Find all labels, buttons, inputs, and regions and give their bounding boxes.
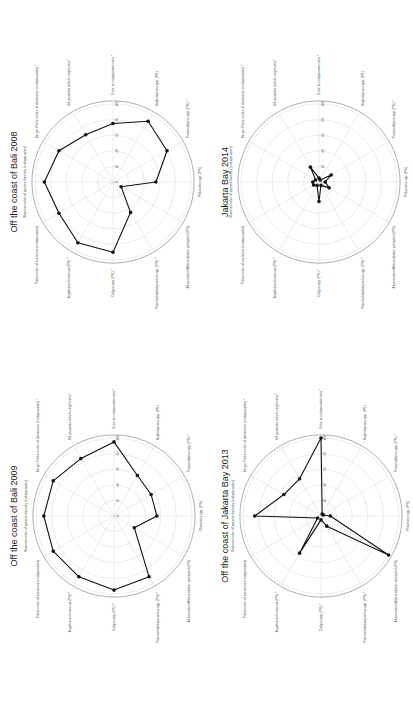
axis-label: Philometra spp. (P%): [198, 167, 202, 197]
axis-label: Procamallanus spp. (P%) *: [392, 99, 396, 138]
tick-label: 80: [321, 118, 325, 122]
data-point: [298, 477, 302, 481]
data-point: [325, 524, 329, 528]
data-point: [57, 149, 61, 153]
tick-label: 0: [116, 515, 120, 517]
axis-label: Berger-Parker index of dominance (endopa…: [241, 64, 245, 138]
tick-label: 40: [321, 149, 325, 153]
data-point: [79, 457, 83, 461]
axis-spoke: [321, 475, 391, 516]
axis-spoke: [278, 182, 319, 252]
axis-label: Pseudorhabdosynochus spp. (P%) *: [156, 591, 160, 643]
data-point: [149, 493, 153, 497]
tick-label: 20: [321, 164, 325, 168]
axis-label: Ecto- to endoparasite ratio *: [317, 54, 321, 94]
chart-title: Off the coast of Bali 2009: [9, 466, 19, 567]
data-point: [43, 180, 47, 184]
data-point: [298, 551, 302, 555]
axis-label: Ecto- to endoparasite ratio *: [112, 388, 116, 428]
data-point: [129, 211, 133, 215]
axis-label: Argathona rhinoceros (P%) *: [273, 257, 277, 298]
axis-label: Philometra spp. (P%): [199, 501, 203, 531]
tick-label: 100: [115, 101, 119, 107]
data-point: [111, 250, 115, 254]
axis-label: Raphidascaris spp. (P%): [361, 71, 365, 106]
data-point: [319, 518, 323, 522]
axis-label: Allocreadium/Allocreadiidae epinepheli (…: [187, 560, 191, 623]
axis-spoke: [73, 446, 114, 516]
axis-spoke: [72, 112, 113, 182]
axis-label: Shannon index of species diversity (endo…: [23, 146, 27, 218]
data-point: [312, 183, 316, 187]
chart-title: Off the coast of Jakarta Bay 2013: [220, 449, 230, 582]
radar-plot: Ecto- to endoparasite ratio *Raphidascar…: [24, 388, 203, 643]
tick-label: 60: [321, 133, 325, 137]
axis-spoke: [280, 446, 321, 516]
series-line: [44, 121, 167, 252]
series-line: [255, 438, 389, 555]
data-point: [315, 184, 319, 188]
tick-label: 60: [323, 467, 327, 471]
axis-label: Raphidascaris spp. (P%): [155, 71, 159, 106]
axis-spoke: [113, 182, 154, 252]
radar-plot: Ecto- to endoparasite ratio *Raphidascar…: [231, 388, 410, 643]
data-point: [329, 514, 333, 518]
tick-label: 100: [116, 435, 120, 441]
tick-label: 80: [116, 452, 120, 456]
data-point: [165, 149, 169, 153]
axis-label: Philometra spp. (P%): [406, 501, 410, 531]
radar-chart: Ecto- to endoparasite ratio *Raphidascar…: [206, 350, 413, 701]
axis-label: Pielou index of evenness (endoparasites): [36, 560, 40, 618]
data-point: [317, 200, 321, 204]
tick-label: 100: [321, 101, 325, 107]
axis-spoke: [319, 112, 360, 182]
axis-label: Pielou index of evenness (endoparasites): [243, 560, 247, 618]
axis-spoke: [321, 446, 362, 516]
tick-label: 40: [323, 483, 327, 487]
axis-label: Raphidascaris spp. (P%): [156, 405, 160, 440]
tick-label: 60: [115, 133, 119, 137]
axis-label: Berger-Parker index of dominance (endopa…: [35, 64, 39, 138]
axis-label: Procamallanus spp. (P%) *: [186, 99, 190, 138]
data-point: [57, 211, 61, 215]
tick-label: 40: [116, 483, 120, 487]
data-point: [319, 436, 323, 440]
axis-label: Berger-Parker index of dominance (endopa…: [243, 398, 247, 472]
data-point: [154, 180, 158, 184]
axis-spoke: [114, 516, 184, 557]
axis-label: Pseudorhabdosynochus spp. (P%) *: [361, 257, 365, 309]
axis-label: Caligus spp. (P%) *: [317, 269, 321, 297]
axis-label: Allocreadium/Allocreadiidae epinepheli (…: [392, 226, 396, 289]
axis-label: Raphidascaris spp. (P%): [363, 405, 367, 440]
axis-label: Caligus spp. (P%) *: [112, 603, 116, 631]
tick-label: 0: [115, 181, 119, 183]
axis-spoke: [251, 475, 321, 516]
data-point: [51, 479, 55, 483]
axis-label: Argathona rhinoceros (P%) *: [67, 257, 71, 298]
data-point: [147, 575, 151, 579]
tick-label: 20: [115, 164, 119, 168]
radar-panel-bali-2008: Ecto- to endoparasite ratio *Raphidascar…: [0, 0, 206, 350]
data-point: [318, 178, 322, 182]
radar-chart: Ecto- to endoparasite ratio *Raphidascar…: [0, 0, 206, 350]
axis-label: Argathona rhinoceros (P%) *: [68, 591, 72, 632]
data-point: [136, 474, 140, 478]
data-point: [132, 526, 136, 530]
axis-label: Gill parasites to fish weight ratio *: [275, 392, 279, 440]
axis-label: Philometra spp. (P%): [404, 167, 408, 197]
axis-label: Pseudorhabdosynochus spp. (P%) *: [155, 257, 159, 309]
axis-label: Shannon index of species diversity (endo…: [24, 480, 28, 552]
axis-label: Gill parasites to fish weight ratio *: [273, 58, 277, 106]
data-point: [316, 516, 320, 520]
data-point: [119, 185, 123, 189]
tick-label: 60: [116, 467, 120, 471]
data-point: [42, 514, 46, 518]
radar-plot: Ecto- to endoparasite ratio *Raphidascar…: [23, 54, 202, 309]
data-point: [327, 186, 331, 190]
axis-label: Shannon index of species diversity (endo…: [229, 146, 233, 218]
axis-spoke: [249, 182, 319, 223]
radar-plot: Ecto- to endoparasite ratio *Raphidascar…: [229, 54, 408, 309]
data-point: [112, 588, 116, 592]
axis-label: Caligus spp. (P%) *: [111, 269, 115, 297]
axis-label: Procamallanus spp. (P%) *: [394, 433, 398, 472]
